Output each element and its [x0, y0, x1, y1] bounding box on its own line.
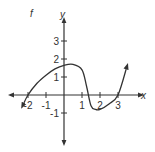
svg-text:1: 1 [79, 100, 85, 111]
function-curve [23, 64, 127, 110]
x-axis-label: x [140, 90, 147, 101]
chart-title: f [30, 8, 34, 19]
svg-text:-1: -1 [50, 108, 59, 119]
svg-text:1: 1 [53, 72, 59, 83]
function-graph: -2-1123321-1 x y f [0, 0, 155, 152]
svg-text:3: 3 [115, 100, 121, 111]
svg-text:3: 3 [53, 36, 59, 47]
y-axis-label: y [59, 9, 66, 20]
svg-text:2: 2 [53, 54, 59, 65]
